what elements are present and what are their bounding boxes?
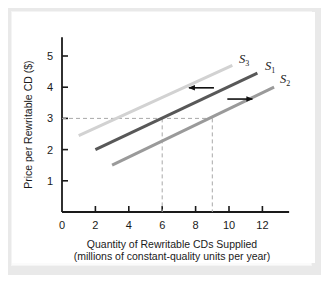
- x-tick-label: 6: [159, 219, 165, 231]
- curve-label-s3: S3: [239, 52, 249, 68]
- y-tick-label: 5: [47, 50, 53, 62]
- x-tick-label: 10: [223, 219, 235, 231]
- curve-label-s2: S2: [280, 72, 290, 88]
- curve-label-s1: S1: [265, 59, 275, 75]
- supply-curve-s1: [95, 73, 257, 149]
- chart-canvas: 12345 024681012 S3S1S2 Quantity of Rewri…: [12, 12, 315, 263]
- y-tick-label: 2: [47, 144, 53, 156]
- supply-shift-chart: 12345 024681012 S3S1S2 Quantity of Rewri…: [12, 12, 315, 263]
- x-axis-title-line1: Quantity of Rewritable CDs Supplied: [87, 238, 258, 250]
- x-tick-label: 12: [256, 219, 268, 231]
- supply-curves: [79, 65, 274, 165]
- supply-curve-labels: S3S1S2: [239, 52, 290, 89]
- y-tick-label: 4: [47, 81, 53, 93]
- supply-curve-s3: [79, 65, 233, 135]
- x-tick-label: 8: [193, 219, 199, 231]
- curve-label-subscript: 2: [286, 79, 290, 88]
- y-tick-label: 1: [47, 175, 53, 187]
- curve-label-subscript: 3: [245, 59, 249, 68]
- chart-axes: [62, 37, 289, 212]
- y-axis-title: Price per Rewritable CD ($): [22, 60, 34, 188]
- x-tick-label: 0: [59, 219, 65, 231]
- figure-root: 12345 024681012 S3S1S2 Quantity of Rewri…: [0, 0, 329, 283]
- curve-label-subscript: 1: [271, 66, 275, 75]
- x-tick-label: 2: [92, 219, 98, 231]
- y-tick-label: 3: [47, 112, 53, 124]
- x-axis-title-line2: (millions of constant-quality units per …: [74, 250, 271, 262]
- x-axis-ticks: 024681012: [59, 206, 269, 231]
- x-tick-label: 4: [126, 219, 132, 231]
